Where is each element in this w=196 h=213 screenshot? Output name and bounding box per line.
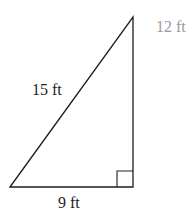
right-triangle-diagram: 15 ft 9 ft 12 ft bbox=[0, 0, 196, 213]
hypotenuse-label: 15 ft bbox=[32, 82, 62, 98]
right-angle-marker bbox=[117, 171, 133, 187]
height-label: 12 ft bbox=[156, 19, 186, 35]
triangle-shape bbox=[10, 17, 133, 187]
base-label: 9 ft bbox=[58, 195, 80, 211]
